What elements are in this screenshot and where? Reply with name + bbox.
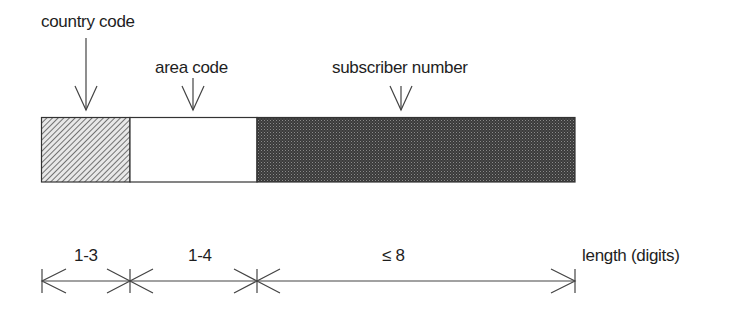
country-code-segment — [42, 118, 131, 183]
diagram-canvas — [0, 0, 735, 315]
area-code-arrow-icon — [182, 78, 204, 110]
country-code-length: 1-3 — [74, 246, 98, 266]
subscriber-number-segment — [257, 118, 575, 183]
length-dimension-line — [42, 269, 575, 293]
area-code-label: area code — [155, 58, 228, 78]
country-code-label: country code — [41, 12, 135, 32]
area-code-length: 1-4 — [188, 246, 212, 266]
axis-label: length (digits) — [582, 246, 680, 266]
field-bar — [42, 118, 576, 183]
country-code-arrow-icon — [75, 38, 97, 110]
phone-number-format-diagram: country code area code subscriber number… — [0, 0, 735, 315]
subscriber-number-arrow-icon — [390, 86, 412, 110]
subscriber-number-length: ≤ 8 — [382, 246, 405, 266]
area-code-segment — [130, 118, 257, 183]
subscriber-number-label: subscriber number — [332, 58, 468, 78]
